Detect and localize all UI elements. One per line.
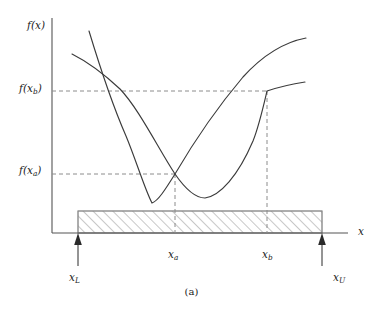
figure-canvas bbox=[0, 0, 383, 312]
x-tick-label-xa: xa bbox=[168, 249, 178, 260]
y-tick-label-fxa: f(xa) bbox=[19, 165, 41, 176]
curves-group bbox=[72, 31, 306, 203]
x-tick-label-xb: xb bbox=[262, 249, 273, 260]
x-axis-label: x bbox=[358, 226, 364, 237]
bound-label-xL: xL bbox=[69, 272, 80, 283]
axes-group bbox=[52, 18, 348, 233]
curve-steep-left bbox=[89, 31, 306, 203]
y-tick-label-fxb: f(xb) bbox=[19, 83, 42, 94]
bound-label-xU: xU bbox=[333, 272, 345, 283]
horizontal-guides bbox=[52, 91, 267, 174]
figure-caption: (a) bbox=[0, 286, 383, 297]
bound-arrow-xU bbox=[318, 233, 326, 266]
hatched-interval-band bbox=[78, 211, 322, 233]
curve-wide-right bbox=[72, 54, 305, 198]
figure-container: f(x) f(xb) f(xa) xa xb xL xU x (a) bbox=[0, 0, 383, 312]
bound-arrow-xL bbox=[74, 233, 82, 266]
y-axis-label: f(x) bbox=[27, 20, 45, 31]
